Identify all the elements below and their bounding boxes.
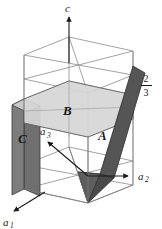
axis-label-a2: a bbox=[138, 170, 144, 182]
axis-label-a1-group: a 1 bbox=[3, 216, 14, 229]
axis-label-a1: a bbox=[3, 216, 9, 228]
axis-label-c: c bbox=[65, 2, 70, 14]
plane-label-A: A bbox=[97, 128, 107, 143]
axis-label-a1-subscript: 1 bbox=[10, 221, 14, 229]
height-fraction-denominator: 3 bbox=[144, 87, 149, 98]
figure-canvas: c a 1 a 2 a 3 A B C 2 3 bbox=[0, 0, 162, 229]
front-bottom-left-edge bbox=[24, 189, 88, 203]
axis-label-a3: a bbox=[40, 125, 46, 137]
plane-label-B: B bbox=[62, 103, 72, 118]
axis-label-a3-subscript: 3 bbox=[46, 131, 51, 140]
axis-a1-line bbox=[14, 192, 45, 211]
hexagonal-cell-figure: c a 1 a 2 a 3 A B C 2 3 bbox=[0, 0, 162, 229]
height-fraction-annotation: 2 3 bbox=[141, 73, 152, 98]
top-diagonal-3 bbox=[24, 51, 133, 79]
plane-label-C: C bbox=[18, 131, 27, 146]
plane-C-face-front bbox=[12, 99, 24, 195]
height-fraction-numerator: 2 bbox=[144, 73, 149, 84]
axis-label-a2-group: a 2 bbox=[138, 170, 149, 184]
axis-label-a2-subscript: 2 bbox=[145, 175, 149, 184]
